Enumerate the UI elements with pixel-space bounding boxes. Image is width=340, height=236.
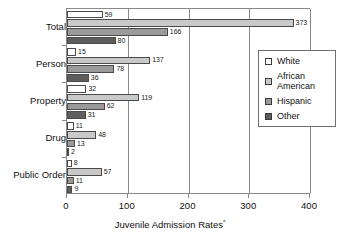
bar (67, 48, 76, 56)
bar (67, 57, 150, 65)
bar (67, 37, 116, 45)
legend-swatch-icon (265, 113, 272, 120)
bar (67, 168, 102, 176)
bar (67, 28, 168, 36)
bar-group: 1148132 (67, 122, 310, 156)
legend-swatch-icon (265, 98, 272, 105)
bar-value-label: 57 (104, 168, 112, 176)
bar (67, 74, 89, 82)
value-tick (66, 194, 67, 198)
legend-item[interactable]: Hispanic (265, 96, 331, 106)
legend: WhiteAfrican AmericanHispanicOther (258, 50, 336, 127)
bar-row: 11 (67, 177, 310, 185)
bar (67, 177, 74, 185)
bar (67, 85, 86, 93)
category-tick (62, 120, 66, 121)
value-tick (309, 194, 310, 198)
legend-item[interactable]: African American (265, 71, 331, 91)
bar-value-label: 137 (152, 56, 163, 64)
bar-value-label: 31 (88, 111, 96, 119)
axis-title-footnote-marker: * (223, 219, 225, 225)
bar (67, 160, 72, 168)
value-tick-label: 0 (46, 200, 86, 211)
category-tick (62, 82, 66, 83)
value-tick-label: 300 (228, 200, 268, 211)
bar-value-label: 11 (76, 177, 83, 185)
bar-group: 5937316680 (67, 11, 310, 45)
bar-row: 2 (67, 148, 310, 156)
legend-label: Other (277, 111, 300, 121)
bar (67, 111, 86, 119)
bar-group: 857119 (67, 160, 310, 194)
bar-row: 59 (67, 11, 310, 19)
bar-value-label: 48 (98, 131, 106, 139)
legend-label: White (277, 56, 300, 66)
bar-value-label: 62 (107, 102, 115, 110)
bar-value-label: 13 (77, 140, 85, 148)
category-label: Drug (45, 132, 66, 143)
bar-chart: 5937316680151377836321196231114813285711… (0, 0, 340, 236)
bar-value-label: 119 (141, 94, 152, 102)
bar-row: 373 (67, 19, 310, 27)
value-tick (127, 194, 128, 198)
bar-value-label: 11 (76, 122, 83, 130)
bar-row: 57 (67, 168, 310, 176)
legend-item[interactable]: Other (265, 111, 331, 121)
bar (67, 103, 105, 111)
bar-value-label: 78 (116, 65, 124, 73)
axis-title: Juvenile Admission Rates* (0, 216, 340, 231)
bar-row: 48 (67, 131, 310, 139)
bar-value-label: 8 (74, 159, 78, 167)
bar-row: 13 (67, 140, 310, 148)
bar-value-label: 2 (71, 148, 75, 156)
bar-value-label: 9 (74, 185, 78, 193)
bar (67, 19, 294, 27)
value-tick (188, 194, 189, 198)
value-tick-label: 200 (168, 200, 208, 211)
bar-value-label: 36 (91, 74, 99, 82)
bar (67, 122, 74, 130)
bar (67, 148, 69, 156)
value-tick-label: 100 (107, 200, 147, 211)
bar-value-label: 80 (118, 37, 126, 45)
bar (67, 94, 139, 102)
axis-title-text: Juvenile Admission Rates (115, 219, 223, 230)
bar (67, 186, 72, 194)
legend-swatch-icon (265, 78, 272, 85)
legend-label: Hispanic (277, 96, 312, 106)
category-tick (62, 157, 66, 158)
bar-value-label: 59 (105, 11, 113, 19)
legend-label: African American (277, 71, 315, 91)
bar (67, 65, 114, 73)
bar-row: 80 (67, 37, 310, 45)
bar (67, 11, 103, 19)
legend-swatch-icon (265, 58, 272, 65)
category-label: Person (36, 58, 66, 69)
bar-value-label: 32 (88, 85, 96, 93)
bar-row: 9 (67, 186, 310, 194)
category-label: Property (30, 95, 66, 106)
bar-value-label: 166 (170, 28, 181, 36)
category-label: Public Order (13, 169, 66, 180)
legend-item[interactable]: White (265, 56, 331, 66)
bar-row: 166 (67, 28, 310, 36)
category-tick (62, 45, 66, 46)
value-tick-label: 400 (289, 200, 329, 211)
bar (67, 140, 75, 148)
category-label: Total (46, 21, 66, 32)
bar-row: 8 (67, 160, 310, 168)
bar-value-label: 373 (296, 19, 307, 27)
value-tick (248, 194, 249, 198)
bar (67, 131, 96, 139)
bar-value-label: 15 (78, 48, 86, 56)
